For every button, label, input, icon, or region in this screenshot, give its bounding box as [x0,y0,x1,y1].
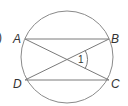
prefix-mark: ) [0,30,2,44]
label-b: B [111,32,119,46]
angle-1-arc [85,50,87,69]
angle-1-label: 1 [78,54,84,65]
circle [21,11,113,103]
label-a: A [12,32,21,46]
label-c: C [111,77,120,91]
circle-geometry-diagram: ) A B C D 1 [0,0,128,106]
label-d: D [13,77,22,91]
